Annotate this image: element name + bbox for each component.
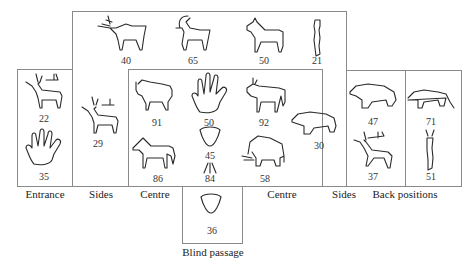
anthropomorph-icon [310, 18, 324, 58]
count-label: 84 [195, 174, 225, 184]
hand-icon [22, 128, 68, 168]
count-label: 22 [29, 114, 59, 124]
count-label: 29 [83, 139, 113, 149]
count-label: 86 [143, 174, 173, 184]
count-label: 40 [111, 56, 141, 66]
count-label: 58 [250, 174, 280, 184]
count-label: 51 [416, 172, 446, 182]
bison-icon [132, 76, 176, 112]
bear-icon [348, 80, 398, 112]
stag-icon [352, 130, 394, 172]
horse-icon [243, 16, 287, 56]
count-label: 37 [358, 172, 388, 182]
count-label: 92 [249, 118, 279, 128]
triangle-sign-icon [199, 193, 223, 215]
zone-label-back-positions: Back positions [360, 188, 450, 200]
feline-icon [406, 84, 458, 112]
count-label: 50 [249, 56, 279, 66]
count-label: 47 [358, 117, 388, 127]
stag-icon [22, 72, 66, 112]
zone-label-centre-left: Centre [128, 188, 182, 200]
aurochs-icon [243, 76, 289, 114]
stag-icon [78, 95, 122, 137]
zone-label-centre-right: Centre [242, 188, 322, 200]
count-label: 65 [178, 56, 208, 66]
zone-label-sides-left: Sides [74, 188, 128, 200]
count-label: 35 [29, 172, 59, 182]
count-label: 21 [302, 56, 332, 66]
horse-icon [131, 134, 179, 170]
mammoth-icon [240, 134, 288, 172]
count-label: 30 [304, 141, 334, 151]
zone-label-entrance: Entrance [18, 188, 72, 200]
ibex-icon [170, 14, 214, 54]
count-label: 71 [416, 117, 446, 127]
count-label: 45 [195, 151, 225, 161]
hand-icon [188, 72, 232, 116]
triangle-sign-icon [198, 126, 222, 148]
zone-label-blind-passage: Blind passage [172, 246, 254, 258]
count-label: 91 [142, 118, 172, 128]
anthropomorph-icon [420, 128, 440, 174]
count-label: 36 [197, 226, 227, 236]
stag-icon [96, 14, 152, 54]
bear-icon [290, 108, 340, 138]
